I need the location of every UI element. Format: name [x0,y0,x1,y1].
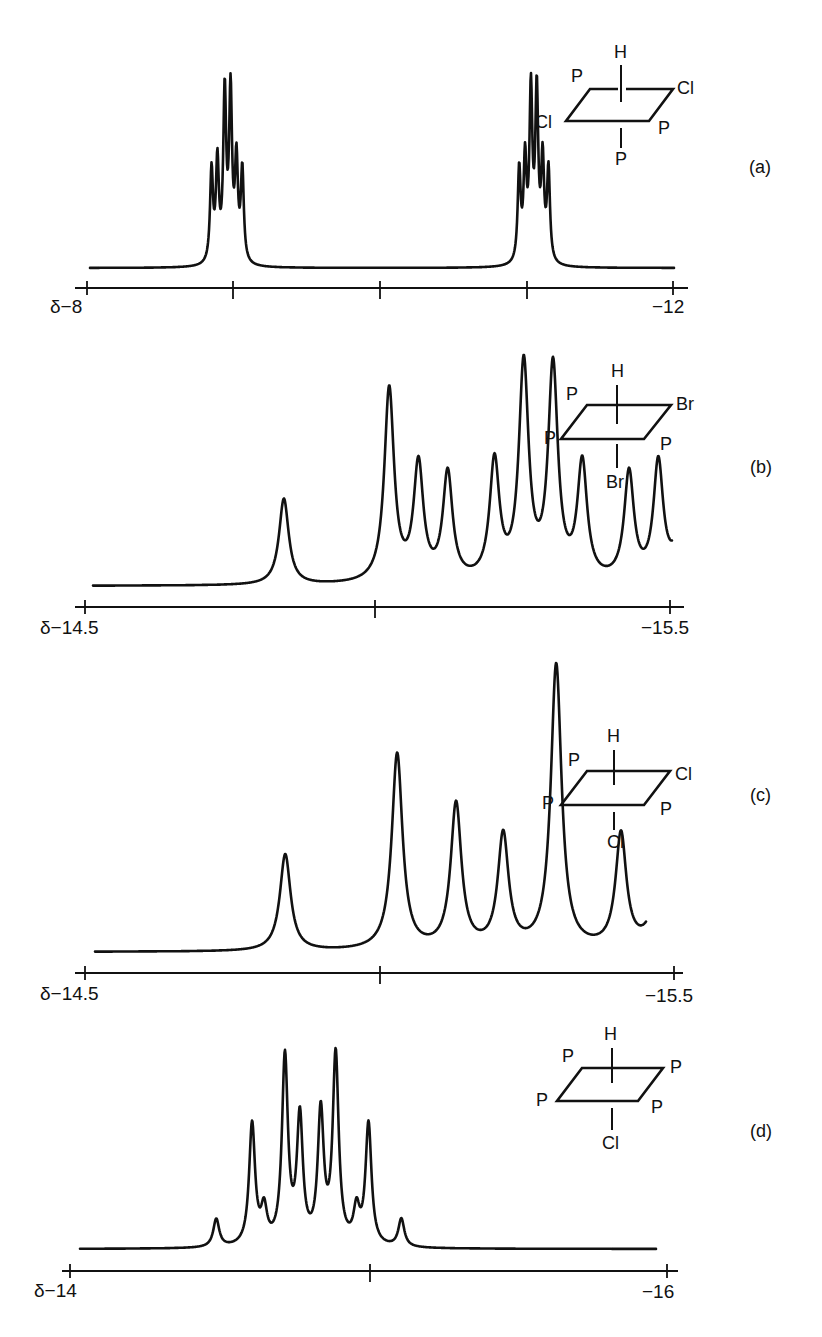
atom-back-left: P [571,66,583,86]
panel-label-d: (d) [750,1121,772,1141]
atom-back-right: Br [676,394,694,414]
atom-top: H [614,42,627,62]
atom-top: H [604,1024,617,1044]
atom-bottom: Cl [602,1133,619,1153]
atom-bottom: Br [606,472,624,492]
panel-b: δ−14.5 −15.5 H P Br P P Br (b) [40,355,772,638]
atom-front-left: P [544,428,556,448]
atom-front-right: P [660,434,672,454]
atom-front-right: P [658,118,670,138]
axis-left-label-a: δ−8 [50,296,82,317]
atom-front-right: P [660,799,672,819]
panel-d: δ−14 −16 H P P P P Cl (d) [34,1024,772,1302]
atom-bottom: P [615,149,627,169]
atom-top: H [611,361,624,381]
panel-a: δ−8 −12 H P Cl Cl P P (a) [50,42,771,317]
spectrum-trace-b [93,355,672,586]
molecule-diagram-d: H P P P P Cl [536,1024,682,1153]
atom-front-left: P [542,793,554,813]
molecule-diagram-a: H P Cl Cl P P [535,42,694,169]
axis-left-label-d: δ−14 [34,1280,77,1301]
atom-top: H [607,726,620,746]
molecule-diagram-b: H P Br P P Br [544,361,694,492]
axis-right-label-b: −15.5 [641,617,689,638]
atom-back-right: Cl [675,764,692,784]
axis-right-label-a: −12 [652,296,684,317]
atom-back-right: P [670,1057,682,1077]
spectrum-trace-c [95,663,646,952]
spectrum-trace-d [80,1048,656,1249]
panel-label-b: (b) [750,457,772,477]
atom-back-left: P [568,750,580,770]
atom-front-left: Cl [535,112,552,132]
nmr-spectra-figure: δ−8 −12 H P Cl Cl P P (a) δ−14.5 −15.5 [0,0,822,1337]
axis-left-label-b: δ−14.5 [40,617,99,638]
atom-back-left: P [562,1046,574,1066]
x-axis-d: δ−14 −16 [34,1264,678,1302]
atom-front-left: P [536,1090,548,1110]
axis-right-label-d: −16 [642,1281,674,1302]
axis-right-label-c: −15.5 [645,985,693,1006]
atom-back-right: Cl [677,78,694,98]
atom-back-left: P [566,384,578,404]
axis-left-label-c: δ−14.5 [40,983,99,1004]
atom-front-right: P [651,1097,663,1117]
spectrum-trace-a [90,73,674,268]
panel-label-a: (a) [749,157,771,177]
x-axis-c: δ−14.5 −15.5 [40,966,693,1006]
x-axis-a: δ−8 −12 [50,281,688,317]
x-axis-b: δ−14.5 −15.5 [40,600,689,638]
panel-c: δ−14.5 −15.5 H P Cl P P Cl (c) [40,663,771,1006]
atom-bottom: Cl [607,832,624,852]
panel-label-c: (c) [750,785,771,805]
